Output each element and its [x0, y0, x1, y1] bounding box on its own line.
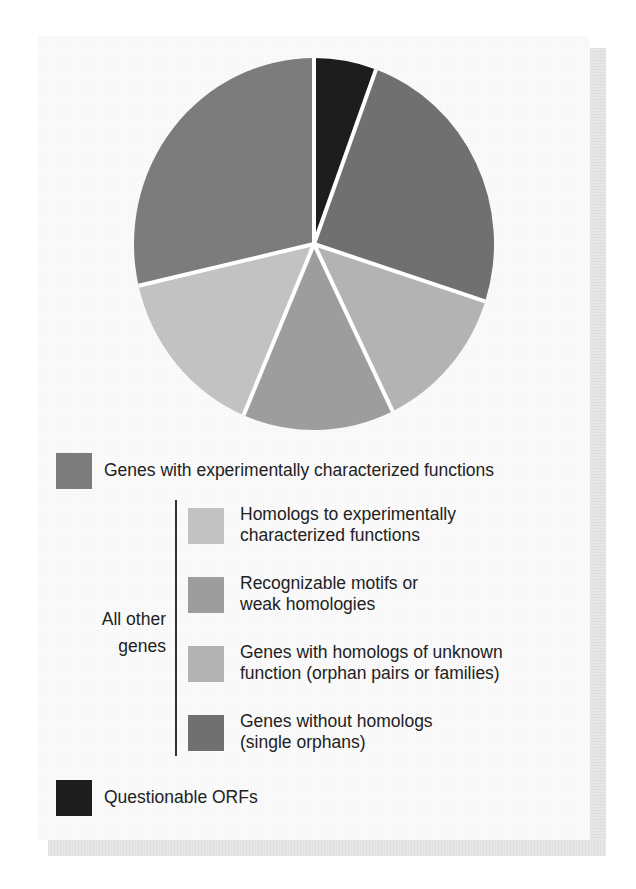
legend-label: Genes with homologs of unknown function …: [240, 642, 503, 684]
legend-swatch: [188, 508, 224, 544]
panel-shadow-right: [590, 48, 606, 856]
legend-swatch: [188, 646, 224, 682]
pie-chart-svg: [130, 56, 498, 432]
legend-label: Genes without homologs (single orphans): [240, 711, 433, 753]
legend-swatch: [56, 780, 92, 816]
legend-label: Genes with experimentally characterized …: [104, 460, 494, 481]
legend-item-orphan-pairs: Genes with homologs of unknown function …: [188, 646, 503, 684]
panel-shadow-bottom: [48, 840, 606, 856]
group-label-line1: All other: [80, 606, 166, 633]
legend-item-questionable-orfs: Questionable ORFs: [56, 780, 258, 816]
legend-item-experimentally-characterized: Genes with experimentally characterized …: [56, 453, 494, 489]
pie-chart: [130, 56, 498, 432]
legend-swatch: [56, 453, 92, 489]
legend-item-homologs-characterized: Homologs to experimentally characterized…: [188, 508, 456, 546]
legend-label: Questionable ORFs: [104, 787, 258, 808]
legend-item-recognizable-motifs: Recognizable motifs or weak homologies: [188, 577, 418, 615]
legend-label: Recognizable motifs or weak homologies: [240, 573, 418, 615]
group-bracket-line: [175, 500, 177, 756]
group-label-line2: genes: [80, 633, 166, 660]
legend-swatch: [188, 715, 224, 751]
legend-item-single-orphans: Genes without homologs (single orphans): [188, 715, 433, 753]
legend-label: Homologs to experimentally characterized…: [240, 504, 456, 546]
legend-swatch: [188, 577, 224, 613]
group-label-all-other-genes: All other genes: [80, 606, 166, 660]
